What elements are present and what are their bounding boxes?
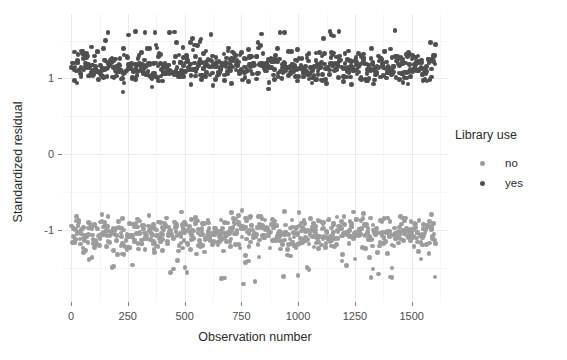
x-tick-label: 1250	[343, 310, 367, 322]
legend-item-label: yes	[505, 177, 523, 189]
data-point	[229, 210, 234, 215]
data-point	[282, 30, 287, 35]
legend-item-yes[interactable]: yes	[473, 173, 563, 193]
x-tick-label: 500	[175, 310, 193, 322]
data-point	[206, 218, 211, 223]
data-point	[349, 82, 354, 87]
data-point	[236, 213, 241, 218]
x-tick-mark	[71, 302, 72, 306]
data-point	[401, 80, 406, 85]
data-point	[193, 74, 198, 79]
data-point	[320, 72, 325, 77]
gridline-vertical-minor	[100, 14, 101, 302]
data-point	[429, 212, 434, 217]
x-tick-mark	[185, 302, 186, 306]
data-point	[246, 47, 251, 52]
data-point	[108, 240, 113, 245]
data-point	[189, 82, 194, 87]
data-point	[388, 219, 393, 224]
data-point	[246, 259, 251, 264]
legend: Library use noyes	[455, 128, 563, 193]
data-point	[174, 224, 179, 229]
data-point	[295, 47, 300, 52]
data-point	[367, 255, 372, 260]
data-point	[324, 229, 329, 234]
data-point	[222, 78, 227, 83]
data-point	[152, 250, 157, 255]
y-axis-title-text: Standardized residual	[11, 102, 25, 223]
data-point	[431, 221, 436, 226]
data-point	[313, 224, 318, 229]
data-point	[172, 30, 177, 35]
data-point	[211, 83, 216, 88]
data-point	[89, 45, 94, 50]
y-axis-title: Standardized residual	[6, 18, 30, 306]
data-point	[174, 40, 179, 45]
data-point	[420, 236, 425, 241]
x-tick-label: 750	[232, 310, 250, 322]
data-point	[427, 241, 432, 246]
data-point	[75, 60, 80, 65]
data-point	[392, 70, 397, 75]
data-point	[321, 36, 326, 41]
data-point	[258, 43, 263, 48]
data-point	[241, 282, 246, 287]
data-point	[133, 29, 138, 34]
data-point	[401, 238, 406, 243]
data-point	[229, 237, 234, 242]
data-point	[282, 238, 287, 243]
data-point	[73, 237, 78, 242]
data-point	[429, 75, 434, 80]
data-point	[248, 240, 253, 245]
data-point	[316, 72, 321, 77]
data-point	[160, 79, 165, 84]
data-point	[340, 252, 345, 257]
legend-item-no[interactable]: no	[473, 153, 563, 173]
data-point	[361, 211, 366, 216]
data-point	[259, 32, 264, 37]
data-point	[120, 76, 125, 81]
data-point	[143, 30, 148, 35]
data-point	[92, 54, 97, 59]
x-tick-mark	[241, 302, 242, 306]
data-point	[427, 251, 432, 256]
data-point	[143, 247, 148, 252]
data-point	[371, 82, 376, 87]
data-point	[213, 77, 218, 82]
data-point	[408, 74, 413, 79]
data-point	[155, 46, 160, 51]
x-tick-mark	[412, 302, 413, 306]
data-point	[209, 32, 214, 37]
data-point	[75, 81, 80, 86]
plot-panel	[62, 14, 448, 302]
data-point	[282, 209, 287, 214]
data-point	[81, 225, 86, 230]
data-point	[321, 220, 326, 225]
data-point	[300, 56, 305, 61]
data-point	[77, 221, 82, 226]
data-point	[346, 49, 351, 54]
data-point	[239, 50, 244, 55]
data-point	[268, 230, 273, 235]
data-point	[203, 74, 208, 79]
x-tick-mark	[355, 302, 356, 306]
data-point	[100, 212, 105, 217]
data-point	[221, 249, 226, 254]
data-point	[228, 244, 233, 249]
y-tick-label: 1	[30, 72, 54, 84]
data-point	[130, 263, 135, 268]
y-tick-label: -1	[30, 224, 54, 236]
data-point	[393, 28, 398, 33]
x-tick-mark	[298, 302, 299, 306]
data-point	[350, 224, 355, 229]
data-point	[261, 51, 266, 56]
data-point	[266, 87, 271, 92]
data-point	[384, 239, 389, 244]
data-point	[243, 253, 248, 258]
data-point	[382, 49, 387, 54]
data-point	[114, 238, 119, 243]
data-point	[290, 218, 295, 223]
data-point	[371, 267, 376, 272]
data-point	[153, 30, 158, 35]
data-point	[106, 30, 111, 35]
